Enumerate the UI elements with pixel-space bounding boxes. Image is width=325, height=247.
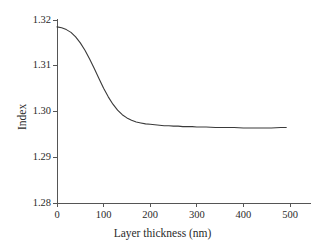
y-tick-label: 1.29	[12, 152, 51, 163]
x-axis-title: Layer thickness (nm)	[0, 227, 325, 239]
x-tick-label: 300	[177, 210, 217, 221]
y-axis-title: Index	[16, 104, 28, 130]
x-tick-label: 200	[130, 210, 170, 221]
x-tick-label: 400	[223, 210, 263, 221]
axis-lines	[57, 19, 311, 203]
chart-figure: 1.281.291.301.311.32 0100200300400500 La…	[0, 0, 325, 247]
data-series-line	[57, 27, 286, 128]
y-tick-label: 1.32	[12, 15, 51, 26]
x-tick-label: 500	[270, 210, 310, 221]
y-tick-label: 1.31	[12, 60, 51, 71]
x-tick-label: 100	[84, 210, 124, 221]
x-tick-label: 0	[37, 210, 77, 221]
y-tick-label: 1.28	[12, 198, 51, 209]
tick-marks	[53, 20, 290, 207]
